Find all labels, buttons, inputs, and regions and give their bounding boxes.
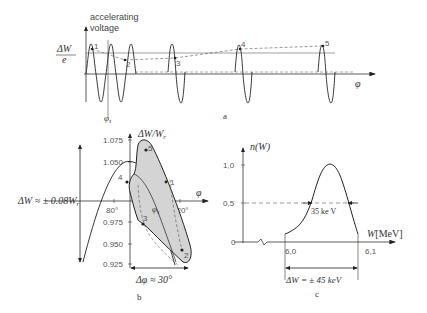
panel-c-xtick-61: 6,1 [365,247,377,256]
panel-b-point-label-3: 3 [143,214,148,223]
panel-a: 1 2 3 4 5 accelerating voltage ΔW e φ φs… [56,12,375,124]
panel-a-point-5 [322,45,325,48]
panel-b-caption: b [137,292,142,302]
panel-c-x-label: W[MeV] [367,228,403,239]
panel-b-phase-spread-label: Δφ ≈ 30° [135,274,172,285]
panel-b-ytick-0925: 0.925 [103,260,124,269]
panel-c: 1,0 0,5 0 35 ke V 6,0 6,1 n(W) W[MeV] ΔW… [223,141,403,299]
panel-a-y-label-line1: accelerating [90,12,139,22]
panel-b-ytick-1075: 1.075 [103,136,124,145]
panel-b-ytick-0950: 0.950 [103,240,124,249]
panel-b-point-label-4: 4 [118,173,123,182]
panel-b-point-1 [165,181,168,184]
panel-b-point-4 [125,180,128,183]
panel-c-caption: c [315,289,319,299]
panel-a-point-label-3: 3 [176,59,181,68]
panel-b-energy-spread-label: ΔW ≈ ± 0.08Wr [17,195,80,208]
panel-b: 1.075 1.050 0.975 0.950 0.925 80° 100° 1… [17,128,208,302]
panel-a-caption: a [223,111,227,121]
panel-c-ytick-0: 0 [231,238,236,247]
panel-b-point-label-2: 2 [184,251,189,260]
panel-b-point-label-1: 1 [170,178,175,187]
panel-b-y-label: ΔW/Wr [137,128,166,141]
panel-a-point-label-1: 1 [94,42,99,51]
panel-c-ytick-1: 1,0 [223,161,235,170]
panel-b-ytick-1050: 1.050 [103,158,124,167]
panel-a-dw-denominator: e [62,54,67,65]
panel-b-x-label: φ [196,187,202,198]
panel-b-ytick-0975: 0.975 [103,218,124,227]
panel-c-spread-label: ΔW = ± 45 keV [285,275,343,285]
panel-c-distribution-curve [285,164,358,234]
panel-a-y-label-line2: voltage [90,23,119,33]
panel-a-dw-numerator: ΔW [56,43,73,54]
panel-c-fwhm-label: 35 ke V [311,207,336,216]
panel-a-point-label-4: 4 [241,40,246,49]
panel-a-phase-label: φs [104,113,112,124]
panel-b-point-label-5: 5 [148,144,153,153]
panel-c-y-label: n(W) [250,141,271,153]
panel-a-point-label-2: 2 [126,60,131,69]
figure: 1 2 3 4 5 accelerating voltage ΔW e φ φs… [0,0,427,313]
panel-a-point-label-5: 5 [325,39,330,48]
panel-c-ytick-05: 0,5 [223,199,235,208]
panel-b-xtick-80: 80° [106,206,118,215]
panel-a-x-label: φ [355,78,361,89]
panel-a-point-1 [91,48,94,51]
panel-c-xtick-60: 6,0 [285,247,297,256]
